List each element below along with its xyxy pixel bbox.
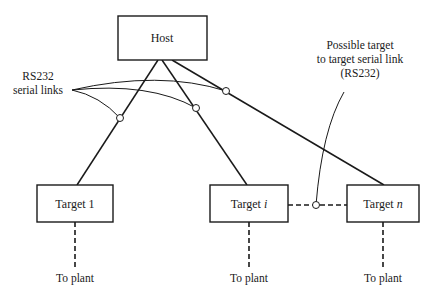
- plant-label-i: To plant: [230, 272, 269, 285]
- plant-label-1: To plant: [56, 272, 95, 285]
- connector-circle-target-link: [313, 202, 320, 209]
- leader-possible-link: [316, 92, 344, 205]
- connector-circle-1: [117, 115, 124, 122]
- leader-serial-3: [72, 80, 226, 91]
- link-host-target1: [77, 60, 158, 185]
- connector-circle-n: [223, 88, 230, 95]
- network-diagram: Host Target 1 Target i Target n To plant…: [0, 0, 433, 297]
- targeti-label: Target i: [231, 197, 268, 211]
- target1-label: Target 1: [55, 197, 94, 211]
- targetn-label: Target n: [363, 197, 402, 211]
- plant-label-n: To plant: [364, 272, 403, 285]
- serial-links-label-line2: serial links: [13, 84, 64, 96]
- leader-serial-1: [72, 90, 120, 118]
- serial-links-label-line1: RS232: [22, 70, 54, 82]
- possible-link-label-line3: (RS232): [341, 67, 380, 80]
- host-label: Host: [151, 31, 174, 45]
- connector-circle-i: [193, 105, 200, 112]
- possible-link-label-line1: Possible target: [326, 39, 394, 52]
- possible-link-label-line2: to target serial link: [317, 53, 404, 66]
